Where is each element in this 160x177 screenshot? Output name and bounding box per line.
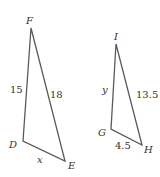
vertex-label-h: H	[143, 144, 153, 155]
triangle-ghi: I G H y 13.5 4.5	[98, 31, 158, 155]
side-label-ef: 18	[50, 89, 63, 100]
side-label-gh: 4.5	[115, 140, 131, 151]
vertex-label-e: E	[67, 160, 76, 171]
side-label-gi: y	[101, 84, 108, 95]
diagram-canvas: F D E 15 18 x I G H y 13.5 4.5	[0, 0, 160, 177]
side-label-de: x	[37, 154, 43, 165]
side-label-hi: 13.5	[136, 89, 158, 100]
vertex-label-g: G	[98, 127, 106, 138]
vertex-label-f: F	[25, 15, 34, 26]
vertex-label-d: D	[8, 139, 17, 150]
side-label-df: 15	[10, 84, 23, 95]
vertex-label-i: I	[113, 31, 119, 42]
triangle-def: F D E 15 18 x	[8, 15, 76, 171]
